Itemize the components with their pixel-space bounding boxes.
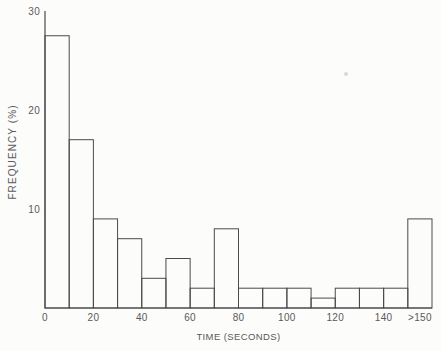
y-tick-label: 10 — [28, 204, 40, 215]
histogram-bar — [142, 278, 166, 308]
histogram-bar — [166, 259, 190, 309]
x-tick-label: >150 — [408, 312, 432, 323]
y-tick-label: 20 — [28, 105, 40, 116]
histogram-bar — [93, 219, 117, 308]
x-tick-label: 60 — [184, 312, 196, 323]
histogram-bar — [263, 288, 287, 308]
x-tick-label: 0 — [42, 312, 48, 323]
x-tick-label: 20 — [88, 312, 100, 323]
histogram-bar — [190, 288, 214, 308]
histogram-bar — [335, 288, 359, 308]
y-tick-label: 30 — [28, 6, 40, 17]
histogram-bar — [69, 140, 93, 308]
histogram-figure: 102030020406080100120140>150 TIME (SECON… — [0, 0, 441, 351]
histogram-bar — [214, 229, 238, 308]
histogram-plot: 102030020406080100120140>150 — [0, 0, 441, 351]
histogram-bar — [408, 219, 432, 308]
x-tick-label: 40 — [136, 312, 148, 323]
y-axis-title: FREQUENCY (%) — [7, 104, 18, 199]
x-tick-label: 100 — [278, 312, 296, 323]
histogram-bar — [118, 239, 142, 308]
histogram-bar — [287, 288, 311, 308]
histogram-bar — [359, 288, 383, 308]
x-tick-label: 140 — [375, 312, 393, 323]
x-tick-label: 80 — [233, 312, 245, 323]
histogram-bar — [239, 288, 263, 308]
histogram-bar — [45, 36, 69, 308]
x-axis-title: TIME (SECONDS) — [45, 331, 432, 342]
scan-artifact — [344, 72, 348, 76]
x-tick-label: 120 — [327, 312, 345, 323]
histogram-bar — [384, 288, 408, 308]
histogram-bar — [311, 298, 335, 308]
